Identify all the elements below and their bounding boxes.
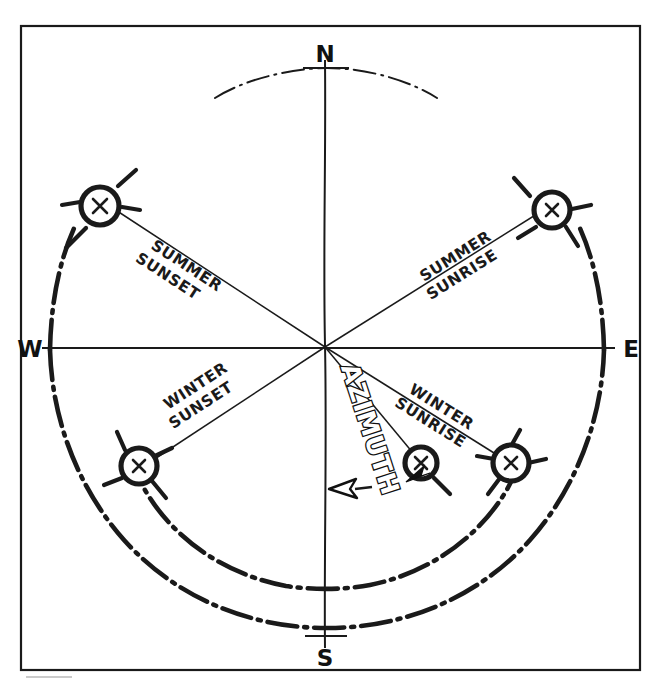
cardinal-label-south: S [317,645,334,671]
sun-summer-sunset [62,170,140,248]
label-winter-sunrise: WINTER SUNRISE [392,377,480,451]
sun-winter-sunset [104,432,172,498]
label-summer-sunset: SUMMER SUNSET [132,233,225,311]
cardinal-label-north: N [315,41,334,67]
azimuth-arrow [329,479,372,498]
label-summer-sunrise: SUMMER SUNRISE [413,227,504,303]
horizon-circle-arc [50,350,604,628]
azimuth-arrowhead-west-icon [329,479,357,498]
sun-current-position [405,447,450,494]
cardinal-label-west: W [17,336,42,362]
figure-canvas: N E S W [0,0,655,687]
horizon-circle-arc-upper-east [578,224,604,350]
cardinal-label-east: E [623,336,639,362]
meridian-axis-north-south [324,60,325,648]
label-winter-sunset: WINTER SUNSET [155,359,241,433]
scan-artifact [26,676,72,678]
label-azimuth: AZIMUTH [335,360,405,499]
azimuth-text: AZIMUTH [335,360,405,499]
sun-path-diagram: N E S W [0,0,655,687]
sun-summer-sunrise [514,178,591,246]
